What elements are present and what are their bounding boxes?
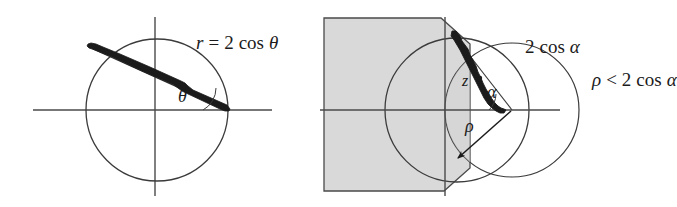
label-rho-radius: ρ: [465, 116, 474, 137]
label-z-point: z: [462, 72, 468, 90]
figure-canvas: [0, 0, 677, 207]
figure-root: r=2cosθ θ 2cosα α ρ z ρ<2cosα: [0, 0, 677, 207]
inequality-relation: <: [606, 69, 617, 90]
inequality-argument: α: [667, 69, 677, 90]
label-r-relation: =: [208, 32, 219, 53]
label-r-coefficient: 2: [224, 32, 234, 53]
label-rho-inequality: ρ<2cosα: [592, 69, 677, 91]
inequality-function: cos: [636, 69, 661, 90]
label-two-cos-alpha: 2cosα: [525, 36, 580, 58]
label-alpha-coefficient: 2: [525, 36, 535, 57]
inequality-variable: ρ: [592, 69, 601, 90]
label-theta-angle: θ: [178, 86, 187, 107]
label-r-variable: r: [196, 32, 203, 53]
right-z-point-marker: [478, 76, 482, 80]
label-r-equation: r=2cosθ: [196, 32, 278, 54]
label-r-argument: θ: [269, 32, 278, 53]
inequality-coefficient: 2: [622, 69, 632, 90]
label-alpha-argument: α: [570, 36, 580, 57]
label-alpha-angle: α: [487, 82, 496, 103]
label-alpha-function: cos: [540, 36, 565, 57]
label-r-function: cos: [239, 32, 264, 53]
